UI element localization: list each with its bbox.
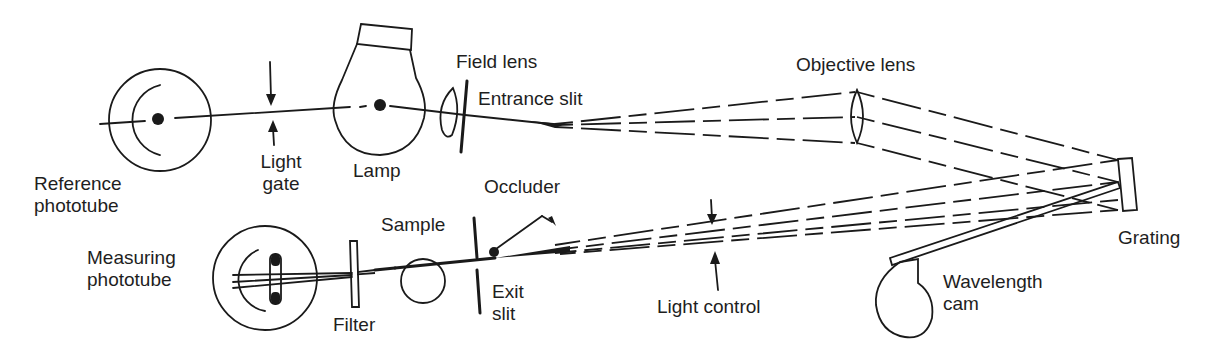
label-entrance-slit: Entrance slit [478,88,583,110]
label-measuring-phototube: Measuring phototube [87,247,176,291]
light-gate-arrows-icon [266,62,278,145]
label-filter: Filter [333,314,375,336]
entrance-slit-icon [461,81,467,152]
label-exit-slit: Exit slit [492,281,524,325]
label-reference-line1: Reference [34,173,122,195]
label-light-gate-line1: Light [250,151,312,173]
label-occluder: Occluder [484,176,560,198]
collimated-rays [857,92,1118,210]
label-exit-slit-line1: Exit [492,281,524,303]
light-control-arrows-icon [707,200,720,290]
diffracted-rays [495,160,1118,258]
label-field-lens: Field lens [456,51,537,73]
label-wavelength-line1: Wavelength [943,271,1043,293]
exit-slit-icon [474,218,480,313]
label-grating: Grating [1118,227,1180,249]
grating-icon [1118,158,1137,211]
label-light-gate-line2: gate [250,173,312,195]
lamp-icon [334,24,425,155]
label-light-control: Light control [657,296,761,318]
label-objective-lens: Objective lens [796,54,915,76]
label-lamp: Lamp [353,160,401,182]
label-wavelength-cam: Wavelength cam [943,271,1043,315]
label-sample: Sample [381,214,445,236]
label-reference-line2: phototube [34,195,122,217]
label-wavelength-line2: cam [943,293,1043,315]
label-light-gate: Light gate [250,151,312,195]
label-measuring-line1: Measuring [87,247,176,269]
label-measuring-line2: phototube [87,269,176,291]
label-reference-phototube: Reference phototube [34,173,122,217]
label-exit-slit-line2: slit [492,303,524,325]
filter-icon [350,241,359,307]
reference-phototube-icon [109,69,211,171]
